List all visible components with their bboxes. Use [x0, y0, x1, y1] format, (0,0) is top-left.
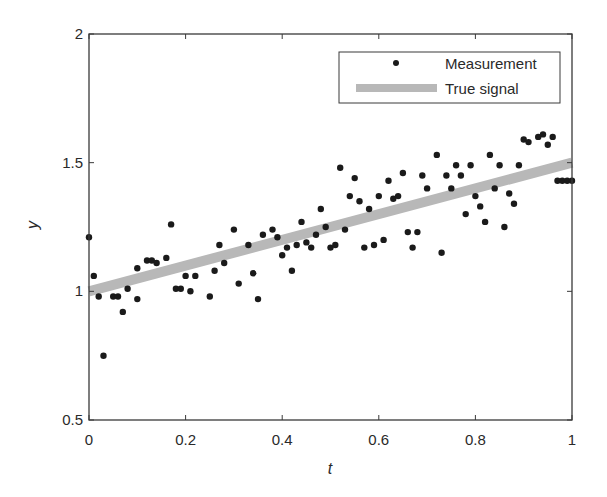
- measurement-point: [434, 152, 440, 158]
- legend-measurement-marker-icon: [393, 60, 399, 66]
- measurement-point: [405, 229, 411, 235]
- measurement-point: [221, 260, 227, 266]
- measurement-point: [298, 219, 304, 225]
- measurement-point: [231, 226, 237, 232]
- x-axis-label: t: [328, 460, 333, 477]
- measurement-point: [482, 219, 488, 225]
- measurement-point: [516, 162, 522, 168]
- measurement-point: [289, 268, 295, 274]
- measurement-point: [216, 242, 222, 248]
- measurement-point: [274, 234, 280, 240]
- measurement-point: [279, 252, 285, 258]
- measurement-point: [124, 286, 130, 292]
- y-tick-label: 1: [75, 282, 83, 299]
- x-tick-label: 0.8: [465, 431, 486, 448]
- legend-measurement-label: Measurement: [445, 55, 538, 72]
- measurement-point: [453, 162, 459, 168]
- measurement-point: [284, 244, 290, 250]
- measurement-point: [395, 193, 401, 199]
- measurement-point: [424, 185, 430, 191]
- y-tick-label: 1.5: [62, 154, 83, 171]
- measurement-point: [361, 244, 367, 250]
- measurement-point: [192, 273, 198, 279]
- measurement-point: [207, 293, 213, 299]
- measurement-point: [318, 206, 324, 212]
- x-tick-label: 0.2: [175, 431, 196, 448]
- measurement-point: [120, 309, 126, 315]
- measurement-point: [211, 268, 217, 274]
- measurement-point: [463, 211, 469, 217]
- measurement-point: [332, 242, 338, 248]
- measurement-point: [352, 175, 358, 181]
- measurement-point: [134, 296, 140, 302]
- measurement-point: [366, 206, 372, 212]
- measurement-point: [178, 286, 184, 292]
- measurement-point: [168, 221, 174, 227]
- measurement-point: [376, 193, 382, 199]
- measurement-point: [472, 193, 478, 199]
- measurement-points: [86, 131, 575, 359]
- measurement-point: [438, 250, 444, 256]
- measurement-point: [260, 232, 266, 238]
- measurement-point: [163, 255, 169, 261]
- y-tick-label: 0.5: [62, 411, 83, 428]
- measurement-point: [245, 242, 251, 248]
- measurement-point: [187, 288, 193, 294]
- legend-true-signal-label: True signal: [445, 80, 519, 97]
- measurement-point: [448, 185, 454, 191]
- measurement-point: [419, 172, 425, 178]
- x-tick-label: 0.6: [368, 431, 389, 448]
- measurement-point: [371, 242, 377, 248]
- measurement-point: [134, 265, 140, 271]
- measurement-point: [506, 190, 512, 196]
- measurement-point: [477, 203, 483, 209]
- measurement-point: [303, 239, 309, 245]
- measurement-point: [409, 244, 415, 250]
- scatter-plot: 00.20.40.60.81 0.511.52 t y Measurement …: [0, 0, 607, 497]
- measurement-point: [550, 134, 556, 140]
- measurement-point: [540, 131, 546, 137]
- measurement-point: [545, 142, 551, 148]
- measurement-point: [337, 165, 343, 171]
- measurement-point: [501, 224, 507, 230]
- measurement-point: [492, 185, 498, 191]
- measurement-point: [96, 293, 102, 299]
- measurement-point: [400, 170, 406, 176]
- measurement-point: [414, 229, 420, 235]
- measurement-point: [487, 152, 493, 158]
- measurement-point: [356, 198, 362, 204]
- measurement-point: [467, 162, 473, 168]
- true-signal-line: [89, 163, 572, 292]
- figure: 00.20.40.60.81 0.511.52 t y Measurement …: [0, 0, 607, 497]
- measurement-point: [91, 273, 97, 279]
- measurement-point: [269, 226, 275, 232]
- measurement-point: [313, 232, 319, 238]
- measurement-point: [380, 237, 386, 243]
- measurement-point: [443, 172, 449, 178]
- measurement-point: [525, 139, 531, 145]
- measurement-point: [496, 162, 502, 168]
- measurement-point: [511, 201, 517, 207]
- measurement-point: [182, 273, 188, 279]
- y-tick-label: 2: [75, 25, 83, 42]
- x-tick-label: 0: [85, 431, 93, 448]
- measurement-point: [236, 280, 242, 286]
- measurement-point: [153, 260, 159, 266]
- legend: Measurement True signal: [339, 52, 560, 103]
- measurement-point: [342, 226, 348, 232]
- measurement-point: [100, 353, 106, 359]
- measurement-point: [255, 296, 261, 302]
- y-axis-label: y: [24, 220, 41, 230]
- measurement-point: [294, 242, 300, 248]
- measurement-point: [347, 193, 353, 199]
- measurement-point: [385, 178, 391, 184]
- true-signal-line: [89, 163, 572, 292]
- x-tick-label: 1: [568, 431, 576, 448]
- measurement-point: [115, 293, 121, 299]
- measurement-point: [308, 244, 314, 250]
- x-tick-label: 0.4: [272, 431, 293, 448]
- measurement-point: [250, 270, 256, 276]
- measurement-point: [458, 172, 464, 178]
- measurement-point: [323, 224, 329, 230]
